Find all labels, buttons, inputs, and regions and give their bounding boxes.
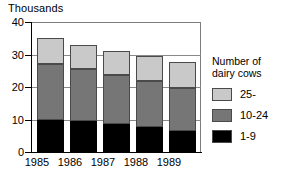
bar-segment-1987-25- (103, 51, 130, 75)
bar-segment-1989-10-24 (169, 88, 196, 131)
bar-segment-1985-1-9 (37, 120, 64, 153)
bar-1988 (136, 56, 163, 152)
y-axis-line (31, 22, 32, 153)
legend-swatch-1-9 (212, 130, 232, 143)
bar-segment-1989-25- (169, 62, 196, 88)
legend-label-1-9: 1-9 (240, 130, 256, 142)
bar-segment-1989-1-9 (169, 131, 196, 152)
bar-segment-1985-10-24 (37, 64, 64, 119)
bar-1989 (169, 62, 196, 152)
legend-items: 25- 10-24 1-9 (212, 85, 278, 145)
bar-segment-1986-10-24 (70, 69, 97, 121)
y-tick-label-40: 40 (0, 17, 24, 28)
y-tick-label-10: 10 (0, 115, 24, 126)
legend-swatch-10-24 (212, 109, 232, 122)
bar-segment-1987-1-9 (103, 124, 130, 152)
legend-label-10-24: 10-24 (240, 109, 268, 121)
bar-segment-1987-10-24 (103, 75, 130, 124)
chart-figure: Thousands 40 30 20 10 0 1985 1986 1987 1… (0, 0, 281, 173)
bar-1986 (70, 45, 97, 152)
y-axis-unit-title: Thousands (8, 2, 63, 15)
legend-swatch-25-plus (212, 88, 232, 101)
legend-item-25-plus: 25- (212, 85, 278, 103)
bar-1985 (37, 38, 64, 152)
legend-label-25-plus: 25- (240, 88, 256, 100)
bar-1987 (103, 51, 130, 152)
legend: Number of dairy cows 25- 10-24 1-9 (212, 55, 278, 148)
y-tick-label-20: 20 (0, 82, 24, 93)
x-tick-label-1989: 1989 (149, 156, 189, 168)
plot-area (31, 22, 201, 152)
y-tick-label-30: 30 (0, 50, 24, 61)
x-axis-line (31, 152, 202, 153)
legend-title-line-2: dairy cows (212, 67, 278, 79)
bar-segment-1986-25- (70, 45, 97, 70)
legend-title-line-1: Number of (212, 55, 278, 67)
bar-segment-1988-1-9 (136, 127, 163, 152)
bar-segment-1988-25- (136, 56, 163, 80)
bar-segment-1988-10-24 (136, 81, 163, 127)
bar-segment-1986-1-9 (70, 121, 97, 152)
bar-segment-1985-25- (37, 38, 64, 65)
legend-item-10-24: 10-24 (212, 106, 278, 124)
legend-item-1-9: 1-9 (212, 127, 278, 145)
